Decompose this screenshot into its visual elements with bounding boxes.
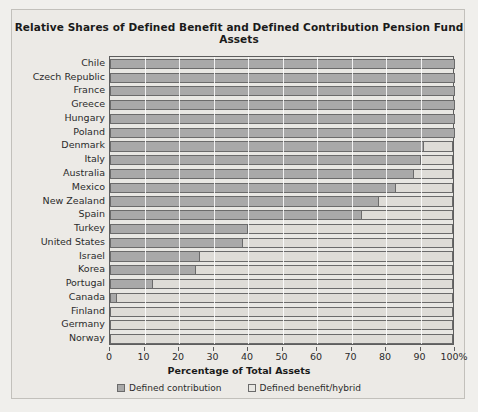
chart-title: Relative Shares of Defined Benefit and D… xyxy=(12,21,466,45)
y-axis-label-finland: Finland xyxy=(12,306,105,316)
bar-segment-defined-benefit xyxy=(110,293,453,303)
bar-segment-defined-contribution xyxy=(110,293,117,303)
bar-row xyxy=(110,307,453,317)
bar-row xyxy=(110,73,453,83)
bar-segment-defined-contribution xyxy=(110,128,455,138)
x-tick-label-0: 0 xyxy=(106,351,112,362)
bar-row xyxy=(110,59,453,69)
bar-row xyxy=(110,334,453,344)
bar-segment-defined-benefit xyxy=(110,334,453,344)
y-axis-label-israel: Israel xyxy=(12,251,105,261)
y-axis-label-portugal: Portugal xyxy=(12,278,105,288)
legend-item-defined-contribution: Defined contribution xyxy=(117,383,222,393)
legend-label-defined-benefit: Defined benefit/hybrid xyxy=(260,383,361,393)
x-tick-label-70: 70 xyxy=(344,351,356,362)
y-axis-label-spain: Spain xyxy=(12,209,105,219)
x-axis-title: Percentage of Total Assets xyxy=(12,365,466,376)
bar-segment-defined-benefit xyxy=(110,279,453,289)
bar-row xyxy=(110,141,453,151)
bar-segment-defined-contribution xyxy=(110,238,243,248)
y-axis-label-korea: Korea xyxy=(12,264,105,274)
bar-segment-defined-contribution xyxy=(110,183,396,193)
y-axis-label-mexico: Mexico xyxy=(12,182,105,192)
bar-segment-defined-contribution xyxy=(110,73,455,83)
x-tick-label-90: 90 xyxy=(413,351,425,362)
y-axis-label-italy: Italy xyxy=(12,154,105,164)
y-axis-category-labels: ChileCzech RepublicFranceGreeceHungaryPo… xyxy=(12,56,105,345)
bar-row xyxy=(110,155,453,165)
legend-item-defined-benefit: Defined benefit/hybrid xyxy=(248,383,361,393)
bar-segment-defined-contribution xyxy=(110,59,455,69)
y-axis-label-denmark: Denmark xyxy=(12,140,105,150)
bar-row xyxy=(110,86,453,96)
y-axis-label-czech-republic: Czech Republic xyxy=(12,72,105,82)
bar-segment-defined-contribution xyxy=(110,114,455,124)
bar-row xyxy=(110,100,453,110)
x-tick-label-10: 10 xyxy=(137,351,149,362)
bar-row xyxy=(110,251,453,261)
bar-row xyxy=(110,183,453,193)
x-tick-label-60: 60 xyxy=(310,351,322,362)
legend-swatch-defined-contribution xyxy=(117,384,125,392)
y-axis-label-france: France xyxy=(12,85,105,95)
bar-segment-defined-contribution xyxy=(110,196,379,206)
bar-row xyxy=(110,293,453,303)
y-axis-label-canada: Canada xyxy=(12,292,105,302)
bar-row xyxy=(110,128,453,138)
bar-segment-defined-benefit xyxy=(110,320,453,330)
chart-figure: Relative Shares of Defined Benefit and D… xyxy=(11,9,465,399)
bar-row xyxy=(110,210,453,220)
legend-swatch-defined-benefit xyxy=(248,384,256,392)
x-tick-label-80: 80 xyxy=(379,351,391,362)
plot-area xyxy=(109,56,454,345)
bar-segment-defined-contribution xyxy=(110,141,424,151)
bar-row xyxy=(110,169,453,179)
bar-segment-defined-contribution xyxy=(110,86,455,96)
y-axis-label-norway: Norway xyxy=(12,333,105,343)
x-tick-label-100: 100% xyxy=(440,351,467,362)
y-axis-label-greece: Greece xyxy=(12,99,105,109)
plot-wrapper xyxy=(109,56,454,345)
y-axis-label-united-states: United States xyxy=(12,237,105,247)
bar-segment-defined-contribution xyxy=(110,279,153,289)
bar-segment-defined-contribution xyxy=(110,210,362,220)
legend-label-defined-contribution: Defined contribution xyxy=(129,383,222,393)
y-axis-label-new-zealand: New Zealand xyxy=(12,196,105,206)
y-axis-label-germany: Germany xyxy=(12,319,105,329)
x-tick-label-20: 20 xyxy=(172,351,184,362)
bar-row xyxy=(110,320,453,330)
bar-rows xyxy=(110,57,453,344)
y-axis-label-poland: Poland xyxy=(12,127,105,137)
bar-row xyxy=(110,114,453,124)
y-axis-label-australia: Australia xyxy=(12,168,105,178)
y-axis-label-hungary: Hungary xyxy=(12,113,105,123)
bar-segment-defined-contribution xyxy=(110,224,248,234)
x-tick-label-30: 30 xyxy=(206,351,218,362)
x-tick-label-40: 40 xyxy=(241,351,253,362)
chart-legend: Defined contribution Defined benefit/hyb… xyxy=(12,383,466,393)
bar-segment-defined-contribution xyxy=(110,251,200,261)
bar-row xyxy=(110,238,453,248)
y-axis-label-chile: Chile xyxy=(12,58,105,68)
bar-row xyxy=(110,224,453,234)
bar-segment-defined-contribution xyxy=(110,265,196,275)
y-axis-label-turkey: Turkey xyxy=(12,223,105,233)
bar-row xyxy=(110,279,453,289)
bar-segment-defined-contribution xyxy=(110,155,421,165)
bar-segment-defined-contribution xyxy=(110,169,414,179)
x-axis-ticks: 0102030405060708090100% xyxy=(12,347,466,363)
bar-segment-defined-contribution xyxy=(110,100,455,110)
bar-segment-defined-benefit xyxy=(110,307,453,317)
bar-row xyxy=(110,265,453,275)
bar-row xyxy=(110,196,453,206)
x-tick-label-50: 50 xyxy=(275,351,287,362)
